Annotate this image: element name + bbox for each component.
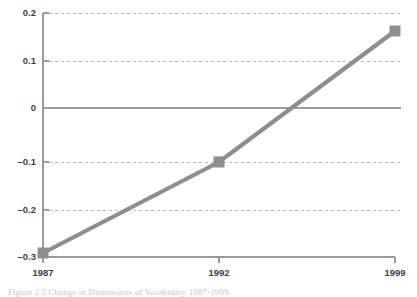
x-axis-labels: 1987 1992 1999 xyxy=(32,267,405,278)
y-axis-label-1: 0.1 xyxy=(23,55,37,66)
y-axis-label-2: 0 xyxy=(31,102,36,113)
figure-caption: Figure 2.5 Change in Dimensions of Vocab… xyxy=(8,287,408,297)
y-axis-label-3: –0.1 xyxy=(18,156,37,167)
y-axis-label-0: 0.2 xyxy=(23,7,36,18)
data-point-1987[interactable] xyxy=(38,248,49,259)
y-tick-marks xyxy=(43,13,49,210)
data-point-1992[interactable] xyxy=(214,157,225,168)
y-axis-label-5: –0.3 xyxy=(18,251,37,262)
data-series-line xyxy=(43,31,395,253)
data-point-markers xyxy=(38,26,401,259)
gridlines xyxy=(43,13,401,210)
y-axis-label-4: –0.2 xyxy=(18,204,37,215)
x-tick-marks xyxy=(43,257,395,263)
x-axis-label-1992: 1992 xyxy=(208,267,229,278)
data-point-1999[interactable] xyxy=(390,26,401,37)
y-axis-labels: 0.2 0.1 0 –0.1 –0.2 –0.3 xyxy=(18,7,37,262)
x-axis-label-1999: 1999 xyxy=(384,267,405,278)
x-axis-label-1987: 1987 xyxy=(32,267,53,278)
